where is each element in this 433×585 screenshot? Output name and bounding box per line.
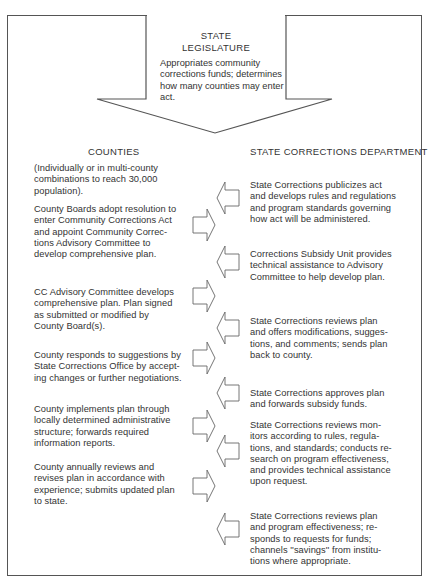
text-line: how act will be administered.: [250, 214, 420, 225]
text-line: information reports.: [34, 438, 204, 449]
state-step-0: State Corrections publicizes actand deve…: [250, 180, 420, 225]
text-line: sponds to requests for funds;: [250, 534, 420, 545]
text-line: enter Community Corrections Act: [34, 215, 204, 226]
state-step-1: Corrections Subsidy Unit providestechnic…: [250, 249, 420, 283]
legislature-title-line1: STATE: [146, 30, 286, 42]
county-step-0: (Individually or in multi-countycombinat…: [34, 163, 204, 197]
text-line: as submitted or modified by: [34, 310, 204, 321]
text-line: upon request.: [250, 476, 420, 487]
legislature-title-line2: LEGISLATURE: [146, 42, 286, 54]
text-line: Corrections Subsidy Unit provides: [250, 249, 420, 260]
text-line: combinations to reach 30,000: [34, 174, 204, 185]
text-line: State Corrections publicizes act: [250, 180, 420, 191]
text-line: and program standards governing: [250, 203, 420, 214]
county-step-2: CC Advisory Committee developscomprehens…: [34, 287, 204, 332]
counties-header: COUNTIES: [88, 146, 140, 157]
text-line: itors according to rules, regula-: [250, 431, 420, 442]
text-line: CC Advisory Committee develops: [34, 287, 204, 298]
text-line: and provides technical assistance: [250, 465, 420, 476]
text-line: County responds to suggestions by: [34, 350, 209, 361]
text-line: and offers modifications, sugges-: [250, 327, 420, 338]
text-line: comprehensive plan. Plan signed: [34, 298, 204, 309]
text-line: State Corrections reviews plan: [250, 511, 420, 522]
text-line: experience; submits updated plan: [34, 485, 204, 496]
text-line: County Boards adopt resolution to: [34, 204, 204, 215]
text-line: revises plan in accordance with: [34, 473, 204, 484]
county-step-1: County Boards adopt resolution toenter C…: [34, 204, 204, 260]
text-line: and develops rules and regulations: [250, 191, 420, 202]
county-step-3: County responds to suggestions byState C…: [34, 350, 209, 384]
text-line: structure; forwards required: [34, 427, 204, 438]
text-line: ing changes or further negotiations.: [34, 373, 209, 384]
text-line: to state.: [34, 496, 204, 507]
text-line: State Corrections Office by accept-: [34, 361, 209, 372]
text-line: population).: [34, 186, 204, 197]
county-step-4: County implements plan throughlocally de…: [34, 404, 204, 449]
text-line: Committee to help develop plan.: [250, 272, 420, 283]
text-line: County implements plan through: [34, 404, 204, 415]
state-corrections-header: STATE CORRECTIONS DEPARTMENT: [250, 146, 428, 157]
county-step-5: County annually reviews andrevises plan …: [34, 462, 204, 507]
text-line: develop comprehensive plan.: [34, 249, 204, 260]
text-line: State Corrections reviews plan: [250, 316, 420, 327]
text-line: and forwards subsidy funds.: [250, 399, 420, 410]
text-line: tions Advisory Committee to: [34, 238, 204, 249]
text-line: and appoint Community Correc-: [34, 227, 204, 238]
text-line: State Corrections reviews mon-: [250, 420, 420, 431]
text-line: channels ''savings'' from institu-: [250, 545, 420, 556]
text-line: and program effectiveness; re-: [250, 522, 420, 533]
text-line: back to county.: [250, 350, 420, 361]
state-step-5: State Corrections reviews planand progra…: [250, 511, 420, 567]
legislature-title: STATE LEGISLATURE: [146, 30, 286, 54]
state-step-4: State Corrections reviews mon-itors acco…: [250, 420, 420, 488]
text-line: locally determined administrative: [34, 415, 204, 426]
text-line: technical assistance to Advisory: [250, 260, 420, 271]
legislature-description: Appropriates community corrections funds…: [160, 58, 290, 103]
text-line: tions where appropriate.: [250, 556, 420, 567]
text-line: tions, and comments; sends plan: [250, 339, 420, 350]
text-line: tions, and standards; conducts re-: [250, 443, 420, 454]
text-line: search on program effectiveness,: [250, 454, 420, 465]
text-line: State Corrections approves plan: [250, 388, 420, 399]
state-step-2: State Corrections reviews planand offers…: [250, 316, 420, 361]
text-line: County Board(s).: [34, 321, 204, 332]
text-line: (Individually or in multi-county: [34, 163, 204, 174]
state-step-3: State Corrections approves planand forwa…: [250, 388, 420, 411]
text-line: County annually reviews and: [34, 462, 204, 473]
